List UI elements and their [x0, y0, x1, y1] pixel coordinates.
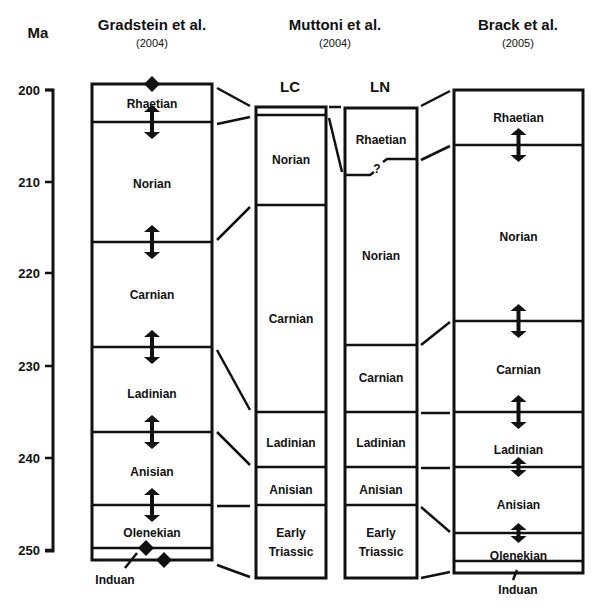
ln-title: LN — [370, 78, 390, 95]
stage-label: Norian — [133, 177, 171, 191]
lc-title: LC — [280, 78, 300, 95]
stage-label: Olenekian — [123, 526, 180, 540]
correlation-connector — [217, 207, 250, 240]
gradstein-title: Gradstein et al. — [98, 16, 206, 33]
stage-label: Ladinian — [266, 436, 315, 450]
axis-tick-label: 220 — [18, 266, 40, 281]
muttoni-lc-column — [256, 107, 326, 578]
correlation-connector — [421, 322, 450, 345]
triassic-timescale-figure: Ma Gradstein et al. (2004) Muttoni et al… — [0, 0, 599, 610]
stage-label: Carnian — [359, 371, 404, 385]
stage-label: Carnian — [269, 312, 314, 326]
stratigraphy-correlation-diagram: Ma Gradstein et al. (2004) Muttoni et al… — [0, 0, 599, 610]
axis-tick-label: 200 — [18, 83, 40, 98]
stage-label: Anisian — [359, 483, 402, 497]
stage-label: Triassic — [359, 545, 404, 559]
brack-title: Brack et al. — [478, 16, 558, 33]
axis-tick-label: 210 — [18, 175, 40, 190]
axis-tick-label: 240 — [18, 451, 40, 466]
stage-label: Rhaetian — [356, 133, 407, 147]
age-axis-line — [45, 90, 53, 551]
muttoni-year: (2004) — [319, 37, 351, 49]
stage-label: Ladinian — [494, 443, 543, 457]
axis-tick-label: 250 — [18, 543, 40, 558]
stage-label: Ladinian — [127, 387, 176, 401]
correlation-connector — [217, 117, 250, 124]
stage-label: Ladinian — [356, 436, 405, 450]
correlation-connector — [217, 88, 250, 106]
correlation-connector — [421, 146, 450, 160]
correlation-connector — [421, 572, 450, 578]
stage-label: Olenekian — [490, 549, 547, 563]
stage-label: Triassic — [269, 545, 314, 559]
correlation-connector — [217, 565, 250, 577]
correlation-connector — [421, 91, 450, 106]
stage-label: Early — [366, 526, 396, 540]
muttoni-title: Muttoni et al. — [289, 16, 382, 33]
muttoni-ln-column — [345, 108, 417, 578]
axis-tick-label: 230 — [18, 359, 40, 374]
stage-label: Anisian — [497, 498, 540, 512]
correlation-connector — [217, 350, 250, 410]
stage-label: Anisian — [269, 483, 312, 497]
gradstein-year: (2004) — [136, 37, 168, 49]
induan-label: Induan — [498, 583, 537, 597]
uncertainty-question-mark: ? — [373, 162, 380, 176]
stage-label: Norian — [362, 249, 400, 263]
stage-label: Carnian — [130, 288, 175, 302]
stage-label: Rhaetian — [493, 111, 544, 125]
brack-year: (2005) — [502, 37, 534, 49]
stage-label: Norian — [499, 230, 537, 244]
correlation-connector — [421, 507, 450, 532]
stage-label: Anisian — [130, 465, 173, 479]
stage-label: Norian — [272, 153, 310, 167]
correlation-connector — [217, 432, 250, 465]
correlation-connector — [329, 118, 342, 172]
stage-label: Early — [276, 526, 306, 540]
induan-label: Induan — [95, 573, 134, 587]
unit-label: Ma — [28, 24, 49, 41]
stage-label: Carnian — [496, 363, 541, 377]
